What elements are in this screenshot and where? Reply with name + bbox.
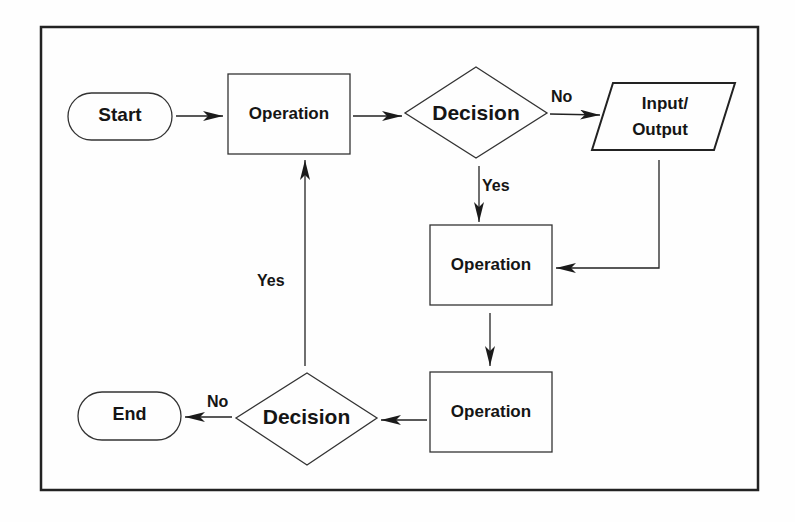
end-label: End	[78, 404, 181, 425]
flowchart-canvas	[0, 0, 795, 522]
arrow-io-to-op2	[556, 160, 659, 268]
edge-label-decision2-yes: Yes	[257, 272, 285, 290]
operation-3-label: Operation	[430, 402, 552, 422]
operation-2-label: Operation	[430, 255, 552, 275]
edge-label-decision2-no: No	[207, 393, 228, 411]
decision-1-label: Decision	[405, 101, 547, 125]
decision-2-label: Decision	[236, 405, 377, 429]
edge-label-decision1-yes: Yes	[482, 177, 510, 195]
arrow-decision1-to-io	[550, 114, 600, 115]
operation-1-label: Operation	[228, 104, 350, 124]
input-output-label-line2: Output	[605, 120, 715, 140]
start-label: Start	[68, 104, 172, 126]
edge-label-decision1-no: No	[551, 88, 572, 106]
input-output-label-line1: Input/	[610, 94, 720, 114]
